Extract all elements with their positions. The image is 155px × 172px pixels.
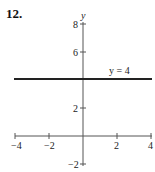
graph-figure: 12. y y = 4 −4 −2 2 4 8 6 2 −2	[0, 0, 155, 172]
x-tick-label: 2	[114, 140, 119, 151]
x-tick-label: −2	[44, 140, 55, 151]
line-label: y = 4	[109, 65, 130, 76]
x-tick-label: −4	[11, 140, 22, 151]
problem-number: 12.	[6, 6, 22, 22]
x-tick-label: 4	[148, 140, 153, 151]
y-tick-label: 2	[73, 103, 78, 114]
y-tick-label: 6	[73, 47, 78, 58]
y-axis-label: y	[80, 10, 86, 21]
y-tick-label: 8	[73, 19, 78, 30]
coordinate-plane: y y = 4 −4 −2 2 4 8 6 2 −2	[0, 0, 155, 172]
y-tick-label: −2	[68, 159, 79, 170]
